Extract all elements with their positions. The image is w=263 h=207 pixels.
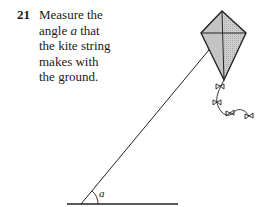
angle-arc	[92, 191, 98, 204]
kite	[201, 11, 246, 80]
angle-label: a	[99, 187, 105, 199]
kite-tail	[213, 80, 253, 119]
kite-figure	[0, 0, 263, 207]
kite-string	[81, 33, 223, 204]
